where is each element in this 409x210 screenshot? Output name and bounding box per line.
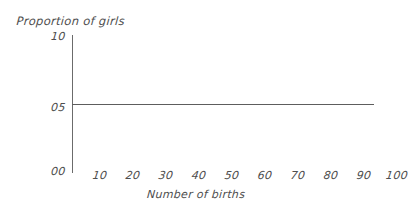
- x-axis-title: Number of births: [0, 188, 392, 201]
- y-tick-label: 05: [36, 101, 66, 114]
- x-tick-label-text: 10: [92, 169, 108, 182]
- x-tick-label-text: 20: [125, 169, 141, 182]
- y-tick-label-text: 05: [51, 101, 67, 114]
- y-axis-title: Proportion of girls: [16, 14, 125, 28]
- x-tick-label-text: 60: [257, 169, 273, 182]
- x-tick-label: 20: [126, 169, 141, 182]
- x-tick-label-text: 40: [191, 169, 207, 182]
- x-axis-tick-labels: 10 20 30 40 50 60 70 80 90 100: [73, 169, 374, 185]
- x-tick-label: 90: [357, 169, 372, 182]
- y-tick-label: 10: [36, 30, 66, 43]
- y-tick-label-text: 10: [51, 30, 67, 43]
- data-series-line: [72, 104, 374, 105]
- x-axis-title-text: Number of births: [146, 188, 245, 201]
- x-tick-label: 40: [192, 169, 207, 182]
- x-tick-label: 80: [324, 169, 339, 182]
- x-tick-label-text: 70: [290, 169, 306, 182]
- x-tick-label-text: 100: [385, 169, 409, 182]
- y-tick-label-text: 00: [51, 165, 67, 178]
- y-tick-label: 00: [36, 165, 66, 178]
- x-tick-label: 60: [258, 169, 273, 182]
- x-tick-label-text: 90: [356, 169, 372, 182]
- x-tick-label: 10: [93, 169, 108, 182]
- plot-area: [72, 35, 374, 173]
- x-tick-label-text: 80: [323, 169, 339, 182]
- x-tick-label: 50: [225, 169, 240, 182]
- x-tick-label-text: 30: [158, 169, 174, 182]
- x-tick-label: 70: [291, 169, 306, 182]
- x-tick-label-text: 50: [224, 169, 240, 182]
- x-tick-label: 30: [159, 169, 174, 182]
- x-tick-label: 100: [386, 169, 408, 182]
